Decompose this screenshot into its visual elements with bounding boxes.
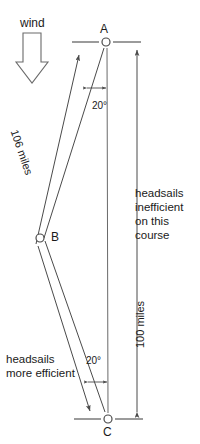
waypoint-b-marker [36,234,44,242]
course-leg-b-to-c-outer [45,241,105,412]
note-headsails-inefficient: headsails inefficient on this course [135,186,199,242]
course-leg-b-to-a [36,55,79,244]
waypoint-a-marker [102,38,110,46]
waypoint-c-label: C [103,425,112,439]
course-leg-b-to-c [38,246,90,411]
note-headsails-more-efficient: headsails more efficient [6,352,76,380]
waypoint-c-marker [104,415,112,423]
wind-label: wind [20,16,45,30]
wind-arrow-icon [16,33,48,83]
angle-label-at-c: 20° [86,355,101,366]
rhumb-line-a-to-c [107,48,108,413]
distance-label-100-miles: 100 miles [134,301,146,348]
waypoint-a-label: A [100,22,108,36]
angle-label-at-a: 20° [92,100,107,111]
waypoint-b-label: B [51,230,59,244]
